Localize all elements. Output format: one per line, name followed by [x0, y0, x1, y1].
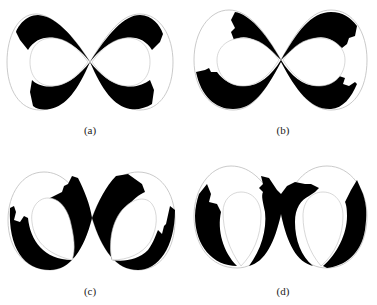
panel-b: (b) [187, 0, 377, 145]
panel-d: (d) [187, 150, 377, 305]
panel-label-b: (b) [263, 124, 303, 136]
panel-label-d: (d) [263, 285, 303, 297]
panel-label-a: (a) [70, 124, 110, 136]
figure-eight-shape-d [187, 150, 377, 305]
figure-eight-shape-c [0, 150, 188, 305]
panel-c: (c) [0, 150, 188, 305]
panel-label-c: (c) [70, 285, 110, 297]
panel-a: (a) [0, 0, 188, 145]
